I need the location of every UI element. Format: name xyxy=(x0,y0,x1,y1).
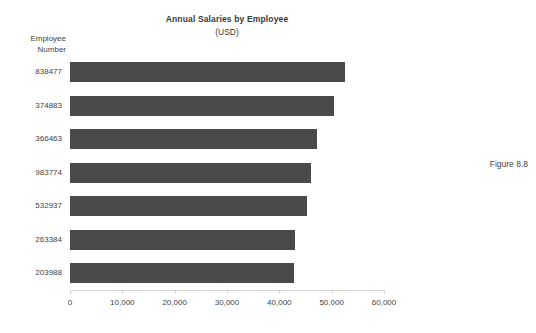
bar-row: 374883 xyxy=(70,89,384,123)
bar-row: 203988 xyxy=(70,256,384,290)
y-axis-title-line-2: Number xyxy=(6,44,66,55)
bar[interactable] xyxy=(70,96,334,116)
y-axis-tick-label: 203988 xyxy=(2,268,62,278)
x-axis-tick xyxy=(175,290,176,294)
chart-subtitle: (USD) xyxy=(70,27,384,37)
y-axis-tick-label: 983774 xyxy=(2,168,62,178)
bar-row: 366463 xyxy=(70,122,384,156)
x-axis-tick xyxy=(332,290,333,294)
figure-caption: Figure 8.8 xyxy=(490,159,528,169)
bar[interactable] xyxy=(70,263,294,283)
figure-container: Annual Salaries by Employee (USD) Employ… xyxy=(0,0,536,333)
x-axis-tick xyxy=(122,290,123,294)
y-axis-tick-label: 374883 xyxy=(2,101,62,111)
bar-row: 983774 xyxy=(70,156,384,190)
y-axis-tick-label: 366463 xyxy=(2,134,62,144)
y-axis-tick-label: 532937 xyxy=(2,201,62,211)
x-axis-tick-label: 30,000 xyxy=(215,298,239,307)
bar[interactable] xyxy=(70,163,311,183)
bar-row: 263384 xyxy=(70,223,384,257)
x-axis-tick xyxy=(70,290,71,294)
bar[interactable] xyxy=(70,230,295,250)
x-axis-tick-label: 0 xyxy=(68,298,72,307)
plot-area: 8384773748833664639837745329372633842039… xyxy=(70,55,384,290)
y-axis-tick-label: 263384 xyxy=(2,235,62,245)
bar[interactable] xyxy=(70,62,345,82)
chart-title: Annual Salaries by Employee xyxy=(70,14,384,24)
x-axis-tick xyxy=(384,290,385,294)
bar-row: 532937 xyxy=(70,189,384,223)
x-axis-tick xyxy=(279,290,280,294)
y-axis-title: Employee Number xyxy=(6,33,66,55)
x-axis-tick xyxy=(227,290,228,294)
x-axis-tick-label: 40,000 xyxy=(267,298,291,307)
x-axis-tick-label: 10,000 xyxy=(110,298,134,307)
bar-row: 838477 xyxy=(70,55,384,89)
y-axis-tick-label: 838477 xyxy=(2,67,62,77)
bar[interactable] xyxy=(70,129,317,149)
x-axis-tick-label: 50,000 xyxy=(319,298,343,307)
x-axis-tick-label: 20,000 xyxy=(162,298,186,307)
x-axis-tick-label: 60,000 xyxy=(372,298,396,307)
y-axis-title-line-1: Employee xyxy=(6,33,66,44)
bar[interactable] xyxy=(70,196,307,216)
